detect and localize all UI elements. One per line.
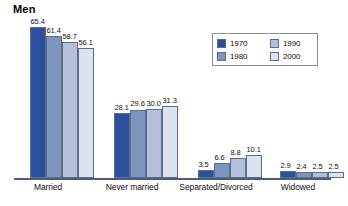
bar-value-label: 2.4 [297, 162, 307, 171]
bar-married-1990 [62, 42, 78, 178]
legend-label-1970: 1970 [230, 39, 247, 48]
bar-separated-divorced-1970 [198, 170, 214, 178]
bar-value-label: 30.0 [147, 99, 161, 108]
bar-never-married-2000 [162, 106, 178, 178]
bar-separated-divorced-1990 [230, 158, 246, 178]
legend-swatch-1970 [217, 39, 226, 48]
bar-value-label: 29.6 [131, 99, 145, 108]
bar-married-1970 [30, 27, 46, 178]
bar-value-label: 61.4 [47, 26, 61, 35]
bar-married-2000 [78, 48, 94, 178]
x-axis-label-widowed: Widowed [241, 182, 348, 192]
bar-separated-divorced-2000 [246, 155, 262, 178]
legend-item-2000: 2000 [270, 52, 319, 61]
legend-item-1990: 1990 [270, 39, 319, 48]
bar-never-married-1990 [146, 109, 162, 178]
x-axis-line [14, 178, 331, 180]
bar-widowed-1970 [280, 171, 296, 178]
legend-label-1990: 1990 [283, 39, 300, 48]
bar-value-label: 2.5 [329, 162, 339, 171]
bar-value-label: 6.6 [215, 153, 225, 162]
bar-never-married-1970 [114, 113, 130, 178]
legend-swatch-1990 [270, 39, 279, 48]
bar-never-married-1980 [130, 110, 146, 179]
bar-value-label: 2.5 [313, 162, 323, 171]
bar-value-label: 56.1 [79, 38, 93, 47]
bar-value-label: 2.9 [281, 161, 291, 170]
bar-value-label: 58.7 [63, 32, 77, 41]
page-title: Men [13, 3, 36, 15]
bar-value-label: 28.1 [115, 103, 129, 112]
legend-item-1980: 1980 [217, 52, 270, 61]
bar-value-label: 3.5 [199, 160, 209, 169]
bar-value-label: 31.3 [163, 96, 177, 105]
bar-value-label: 8.8 [231, 148, 241, 157]
legend-label-1980: 1980 [230, 52, 247, 61]
legend-swatch-2000 [270, 52, 279, 61]
bar-separated-divorced-1980 [214, 163, 230, 178]
legend-label-2000: 2000 [283, 52, 300, 61]
legend-item-1970: 1970 [217, 39, 270, 48]
bar-value-label: 10.1 [247, 145, 261, 154]
bar-value-label: 65.4 [31, 17, 45, 26]
legend-swatch-1980 [217, 52, 226, 61]
chart-legend: 1970 1990 1980 2000 [212, 33, 318, 66]
bar-married-1980 [46, 36, 62, 178]
